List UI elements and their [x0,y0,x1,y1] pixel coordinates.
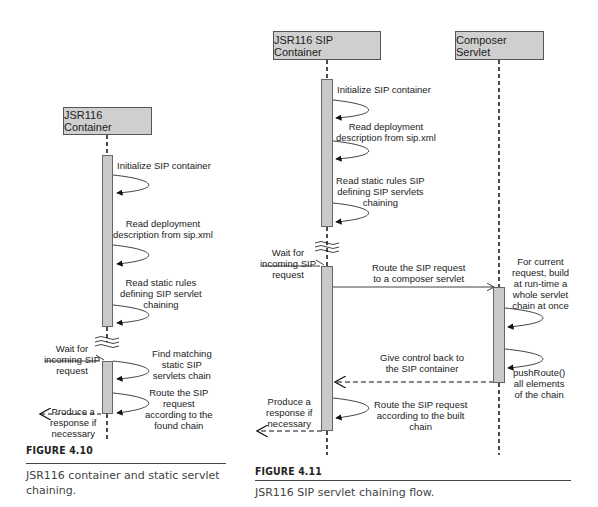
activation-bar [493,287,505,383]
message-route-to-composer: Route the SIP request to a composer serv… [372,262,465,284]
figure-rule [255,480,571,481]
message-push-route: pushRoute() all elements of the chain [513,367,565,400]
activation-bar [321,266,333,431]
activation-bar [321,79,333,227]
message-read-deployment: Read deployment description from sip.xml [336,121,436,143]
message-read-static-rules: Read static rules SIP defining SIP servl… [336,175,425,208]
figure-caption: JSR116 SIP servlet chaining flow. [255,485,571,500]
message-initialize: Initialize SIP container [337,84,431,95]
figure-label: FIGURE 4.11 [255,465,322,478]
message-give-control-back: Give control back to the SIP container [380,352,464,374]
message-route-built-chain: Route the SIP request according to the b… [374,399,467,432]
response-label: Produce a response if necessary [266,396,312,429]
wait-label: Wait for incoming SIP request [260,247,316,280]
message-build-chain: For current request, build at run-time a… [512,256,569,311]
